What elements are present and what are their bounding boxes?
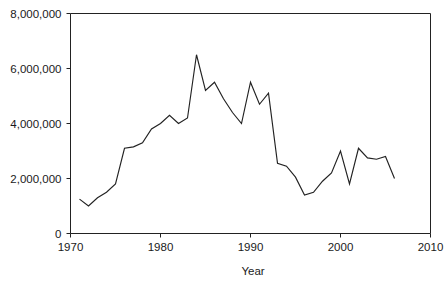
y-tick-label: 8,000,000: [10, 8, 61, 20]
line-chart: 02,000,0004,000,0006,000,0008,000,000 19…: [0, 0, 448, 281]
chart-background: [0, 0, 448, 281]
x-tick-label: 1980: [148, 241, 174, 253]
y-tick-label: 6,000,000: [10, 63, 61, 75]
y-tick-label: 4,000,000: [10, 118, 61, 130]
y-tick-label: 2,000,000: [10, 173, 61, 185]
x-tick-label: 2000: [328, 241, 354, 253]
chart-container: 02,000,0004,000,0006,000,0008,000,000 19…: [0, 0, 448, 281]
x-tick-label: 1990: [238, 241, 264, 253]
x-tick-label: 1970: [58, 241, 84, 253]
y-tick-label: 0: [55, 228, 61, 240]
x-axis-title: Year: [241, 265, 264, 277]
x-tick-label: 2010: [418, 241, 444, 253]
